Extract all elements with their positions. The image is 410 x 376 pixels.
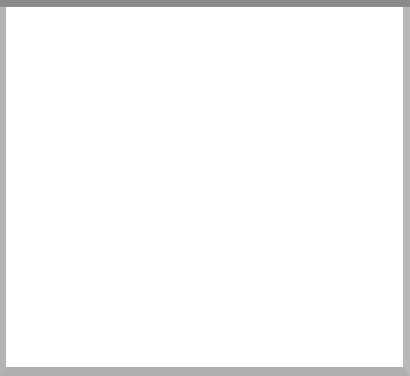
chart-canvas: 0510152025303540 19851990199520002002200… <box>0 0 410 376</box>
y-tick-label: 35 <box>43 37 54 48</box>
y-tick-label: 40 <box>43 5 54 16</box>
x-tick-label: 2002 <box>296 280 317 291</box>
legend-label-abc: ABC <box>270 339 290 350</box>
x-tick-label: 2004 <box>352 280 373 291</box>
line-chart-svg: 0510152025303540 19851990199520002002200… <box>0 0 410 376</box>
y-tick-label: 10 <box>43 199 54 210</box>
y-tick-label: 30 <box>43 70 54 81</box>
y-tick-label: 0 <box>48 264 53 275</box>
y-tick-label: 20 <box>43 135 54 146</box>
legend-label-3-networks: 3 Networks <box>335 339 383 350</box>
y-tick-label: 25 <box>43 102 54 113</box>
x-tick-label: 1995 <box>184 280 205 291</box>
x-tick-label: 1985 <box>72 280 93 291</box>
y-tick-label: 15 <box>43 167 54 178</box>
x-tick-label: 1990 <box>128 280 149 291</box>
x-tick-label: 2000 <box>240 280 261 291</box>
x-axis: 198519901995200020022004 <box>72 270 373 291</box>
x-axis-title: Year <box>210 298 229 309</box>
chart-figure: 0510152025303540 19851990199520002002200… <box>0 0 410 376</box>
y-tick-label: 5 <box>48 232 53 243</box>
y-axis-title: Rating (in percent) <box>8 101 19 179</box>
legend-label-cbs: CBS <box>122 339 142 350</box>
legend-label-nbc: NBC <box>196 339 216 350</box>
